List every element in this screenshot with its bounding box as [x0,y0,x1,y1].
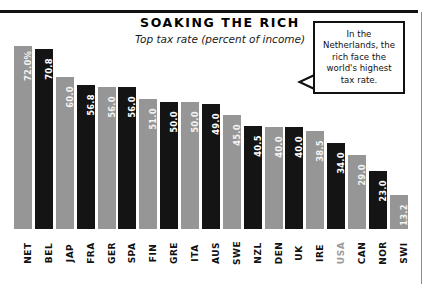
top-rule [0,10,418,13]
x-axis-label: FIN [148,244,158,263]
title-block: SOAKING THE RICH Top tax rate (percent o… [120,15,320,45]
x-label-column: DEN [265,231,283,279]
bar: 29.0 [348,155,366,229]
x-label-column: SPA [118,231,136,279]
x-label-column: SWE [223,231,241,279]
bar: 49.0 [202,104,220,229]
bar-value-label: 56.0 [107,96,117,117]
bar-column: 13.2 [390,46,408,229]
x-axis-labels: NETBELJAPFRAGERSPAFINGREITAAUSSWENZLDENU… [14,231,408,279]
x-axis-label: JAP [65,244,75,262]
bar-value-label: 56.0 [127,96,137,117]
bar-value-label: 34.0 [336,152,346,173]
bar-column: 34.0 [327,46,345,229]
x-axis-label: SPA [127,243,137,264]
bar: 13.2 [390,195,408,229]
bar: 23.0 [369,171,387,229]
x-axis-label: SWE [232,241,242,265]
bar: 56.0 [118,87,136,229]
bar-value-label: 49.0 [211,114,221,135]
chart-subtitle: Top tax rate (percent of income) [120,33,320,45]
bar-value-label: 70.8 [44,58,54,79]
x-axis-label: ITA [190,244,200,261]
bar-value-label: 23.0 [378,180,388,201]
bar: 40.0 [265,127,283,229]
bar-column: 23.0 [369,46,387,229]
bar-column: 56.0 [118,46,136,229]
bar: 40.0 [285,127,303,229]
x-label-column: GER [98,231,116,279]
x-label-column: JAP [56,231,74,279]
bar: 56.0 [98,87,116,229]
x-label-column: FRA [77,231,95,279]
bar-column: 45.0 [223,46,241,229]
bar-value-label: 60.0 [65,86,75,107]
x-axis-label: UK [294,245,304,260]
bar-value-label: 40.0 [274,137,284,158]
x-axis-label: NET [23,242,33,263]
bar: 72.0% [14,46,32,229]
bar-column: 72.0% [14,46,32,229]
x-label-column: NOR [369,231,387,279]
bar-column: 40.0 [285,46,303,229]
bar: 34.0 [327,143,345,229]
bar: 45.0 [223,115,241,229]
chart-figure: SOAKING THE RICH Top tax rate (percent o… [0,0,439,284]
x-axis-label: CAN [357,242,367,265]
x-axis-label: BEL [44,243,54,263]
bar-value-label: 56.8 [86,94,96,115]
bar-value-label: 72.0% [23,51,33,81]
bar-value-label: 40.5 [253,135,263,156]
x-axis-label: AUS [211,242,221,264]
x-label-column: NET [14,231,32,279]
bar: 51.0 [139,99,157,229]
x-label-column: NZL [244,231,262,279]
bar-value-label: 29.0 [357,165,367,186]
bar-column: 38.5 [306,46,324,229]
x-label-column: SWI [390,231,408,279]
x-axis-label: NZL [253,242,263,263]
bar-column: 60.0 [56,46,74,229]
bar: 50.0 [160,102,178,229]
bar-value-label: 45.0 [232,124,242,145]
x-axis-label: GER [107,242,117,264]
bar-value-label: 50.0 [169,111,179,132]
bar-column: 56.8 [77,46,95,229]
bar-value-label: 51.0 [148,109,158,130]
x-axis-label: IRE [315,244,325,262]
bar-column: 40.5 [244,46,262,229]
bar-column: 40.0 [265,46,283,229]
bar: 56.8 [77,85,95,229]
bar-value-label: 38.5 [315,140,325,161]
bar-column: 70.8 [35,46,53,229]
x-label-column: UK [285,231,303,279]
x-axis-label: USA [336,242,346,264]
x-axis-label: NOR [378,241,388,265]
bar-column: 49.0 [202,46,220,229]
x-label-column: CAN [348,231,366,279]
bar-value-label: 50.0 [190,111,200,132]
right-sidebar-rule [421,12,422,284]
x-label-column: IRE [306,231,324,279]
bar-value-label: 13.2 [399,205,409,226]
bar-column: 50.0 [181,46,199,229]
x-axis-label: FRA [86,242,96,264]
x-label-column: USA [327,231,345,279]
bar-column: 51.0 [139,46,157,229]
x-axis-label: GRE [169,242,179,264]
x-label-column: ITA [181,231,199,279]
bar: 40.5 [244,126,262,229]
bar: 38.5 [306,131,324,229]
bar: 70.8 [35,49,53,229]
bar-column: 56.0 [98,46,116,229]
chart-title: SOAKING THE RICH [120,15,320,30]
bar-value-label: 40.0 [294,137,304,158]
x-axis-label: SWI [399,242,409,263]
x-label-column: GRE [160,231,178,279]
bar-column: 29.0 [348,46,366,229]
bar: 60.0 [56,77,74,230]
x-label-column: FIN [139,231,157,279]
bar: 50.0 [181,102,199,229]
x-axis-label: DEN [274,242,284,265]
x-label-column: BEL [35,231,53,279]
